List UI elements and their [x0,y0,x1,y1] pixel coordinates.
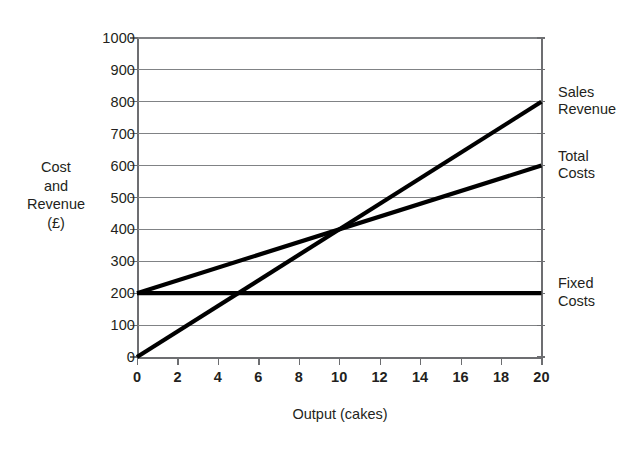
x-tick-label: 16 [452,369,468,385]
x-tick-label: 6 [254,369,262,385]
y-tick-label: 300 [111,253,136,269]
x-axis-title: Output (cakes) [137,406,543,422]
y-tick-label: 900 [111,62,136,78]
y-tick-label: 600 [111,158,136,174]
series-label-total-costs: Total Costs [558,148,595,183]
x-tick-mark [380,357,381,365]
y-tick-label: 800 [111,94,136,110]
x-tick-mark [299,357,300,365]
x-tick-mark [177,357,178,365]
y-tick-label: 100 [111,317,136,333]
x-tick-mark [541,357,542,365]
y-tick-label: 400 [111,221,136,237]
x-tick-mark [218,357,219,365]
x-tick-label: 4 [214,369,222,385]
x-tick-label: 8 [295,369,303,385]
series-lines [137,38,543,357]
series-line-total-costs [137,166,541,294]
x-tick-mark [258,357,259,365]
x-tick-label: 18 [493,369,509,385]
y-tick-label: 1000 [102,30,135,46]
x-tick-mark [339,357,340,365]
x-tick-label: 12 [372,369,388,385]
plot-area: 01002003004005006007008009001000 0246810… [137,38,543,357]
x-tick-label: 0 [133,369,141,385]
x-tick-label: 10 [331,369,347,385]
x-tick-mark [461,357,462,365]
x-tick-label: 14 [412,369,428,385]
break-even-chart: Cost and Revenue (£) 0100200300400500600… [0,0,636,450]
y-tick-label: 500 [111,190,136,206]
series-label-fixed-costs: Fixed Costs [558,275,595,310]
y-axis-title: Cost and Revenue (£) [14,158,98,232]
y-tick-label: 700 [111,126,136,142]
x-tick-label: 2 [173,369,181,385]
series-label-sales-revenue: Sales Revenue [558,84,616,119]
x-tick-label: 20 [533,369,549,385]
y-tick-label: 200 [111,285,136,301]
y-tick-label: 0 [127,349,135,365]
x-tick-mark [501,357,502,365]
x-tick-mark [420,357,421,365]
